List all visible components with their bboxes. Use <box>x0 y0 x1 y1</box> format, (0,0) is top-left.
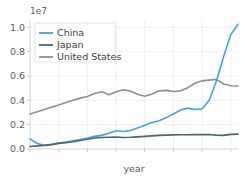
y-tick-label: 0.6 <box>10 70 25 81</box>
legend-label-united-states: United States <box>57 51 121 62</box>
y-tick-label: 0.4 <box>10 95 25 106</box>
y-axis-offset-label: 1e7 <box>30 6 47 16</box>
chart-figure: 0.00.20.40.60.81.0 1e7 year ChinaJapanUn… <box>0 0 245 180</box>
legend-label-japan: Japan <box>56 39 84 50</box>
y-axis-tickmarks <box>27 27 30 149</box>
y-tick-label: 0.8 <box>10 46 25 57</box>
chart-legend: ChinaJapanUnited States <box>35 23 121 62</box>
y-axis-tick-labels: 0.00.20.40.60.81.0 <box>10 22 25 155</box>
line-chart: 0.00.20.40.60.81.0 1e7 year ChinaJapanUn… <box>0 0 245 180</box>
x-axis-tickmarks <box>30 149 231 152</box>
y-tick-label: 0.2 <box>10 119 25 130</box>
y-tick-label: 1.0 <box>10 22 25 33</box>
legend-label-china: China <box>57 27 84 38</box>
y-tick-label: 0.0 <box>10 143 25 154</box>
x-axis-label: year <box>123 163 144 174</box>
